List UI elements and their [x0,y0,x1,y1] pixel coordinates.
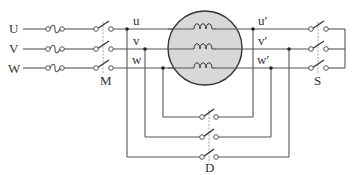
label-u-prime: u′ [258,13,268,28]
label-W: W [8,61,21,76]
label-v-prime: v′ [258,33,268,48]
fuse-to-main-lines [64,29,94,68]
star-switch-S [309,21,345,74]
label-w: w [132,52,142,67]
label-v: v [133,33,140,48]
label-U: U [9,21,19,36]
coil-icon [194,22,216,71]
label-S: S [314,73,321,88]
label-u: u [133,13,140,28]
circuit-diagram: U V W M u v w [0,0,352,175]
supply-lines [23,29,46,68]
label-M: M [100,73,112,88]
fuse-icon [46,25,65,72]
label-w-prime: w′ [257,52,269,67]
main-switch-M [94,21,114,74]
label-V: V [9,41,19,56]
delta-switch-D [200,109,219,163]
motor-to-star-lines [242,29,309,68]
motor [168,11,242,85]
label-D: D [205,160,214,175]
